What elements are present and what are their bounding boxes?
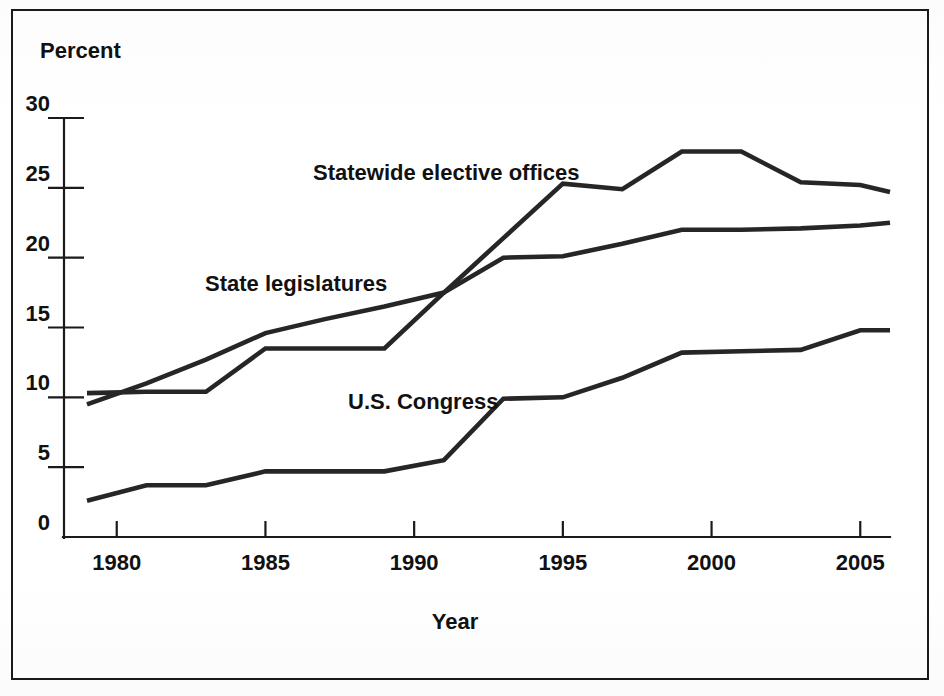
y-tick-label: 25	[26, 161, 50, 186]
y-tick-label: 20	[26, 231, 50, 256]
x-tick-label: 2000	[687, 550, 736, 575]
y-tick-label: 15	[26, 301, 50, 326]
x-axis-title: Year	[432, 609, 479, 634]
y-tick-label: 0	[38, 510, 50, 535]
x-tick-label: 1985	[241, 550, 290, 575]
series-group	[87, 152, 890, 501]
series-label-statewide-elective-offices: Statewide elective offices	[313, 160, 580, 185]
x-tick-label: 1990	[390, 550, 439, 575]
y-tick-label: 5	[38, 440, 50, 465]
series-label-state-legislatures: State legislatures	[205, 271, 387, 296]
x-tick-label: 2005	[836, 550, 885, 575]
x-tick-label: 1980	[92, 550, 141, 575]
chart-page: Percent 051015202530 1980198519901995200…	[0, 0, 944, 696]
y-tick-label: 10	[26, 370, 50, 395]
series-line-u-s-congress	[87, 330, 890, 500]
line-chart-plot: Percent 051015202530 1980198519901995200…	[0, 0, 944, 696]
series-label-us-congress: U.S. Congress	[348, 389, 498, 414]
y-tick-group: 051015202530	[26, 91, 84, 535]
y-tick-label: 30	[26, 91, 50, 116]
x-tick-group: 198019851990199520002005	[92, 521, 884, 575]
x-tick-label: 1995	[538, 550, 587, 575]
y-axis-title: Percent	[40, 38, 121, 63]
series-line-state-legislatures	[87, 223, 890, 393]
